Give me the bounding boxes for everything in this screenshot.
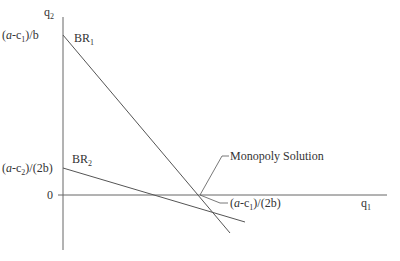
origin-zero-label: 0: [47, 188, 53, 202]
br1-label: BR1: [74, 31, 94, 47]
br1-line: [63, 35, 230, 233]
x-axis-label: q1: [361, 196, 371, 212]
y-tick-a-c1-over-b: (a-c1)/b: [2, 28, 39, 44]
y-axis-label: q2: [44, 5, 54, 21]
y-tick-a-c2-over-2b: (a-c2)/(2b): [2, 161, 53, 177]
monopoly-leader: [200, 156, 229, 195]
br2-label: BR2: [72, 152, 92, 168]
x-intercept-label: (a-c1)/(2b): [230, 196, 281, 212]
diagram-canvas: q2 (a-c1)/b BR1 (a-c2)/(2b) BR2 0 Monopo…: [0, 0, 400, 261]
monopoly-solution-label: Monopoly Solution: [230, 149, 324, 163]
